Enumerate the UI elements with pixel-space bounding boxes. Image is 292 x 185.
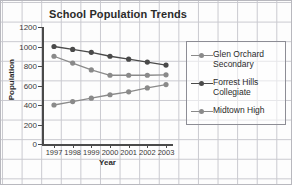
legend-item[interactable]: Forrest Hills Collegiate bbox=[191, 78, 258, 97]
y-tick-label: 400 bbox=[24, 101, 37, 110]
data-point bbox=[145, 60, 150, 65]
data-point bbox=[51, 44, 56, 49]
data-point bbox=[70, 60, 75, 65]
legend-item[interactable]: Glen Orchard Secondary bbox=[191, 50, 264, 69]
x-tick-label: 1997 bbox=[46, 148, 63, 157]
data-point bbox=[70, 47, 75, 52]
y-tick-label: 1000 bbox=[19, 42, 37, 51]
y-tick-label: 800 bbox=[24, 62, 37, 71]
y-tick-label: 1200 bbox=[19, 23, 37, 32]
data-point bbox=[145, 73, 150, 78]
legend-marker-icon bbox=[191, 107, 213, 117]
legend-label: Forrest Hills Collegiate bbox=[213, 78, 258, 97]
x-tick-label: 2003 bbox=[158, 148, 175, 157]
chart-title: School Population Trends bbox=[49, 8, 179, 20]
data-point bbox=[107, 73, 112, 78]
legend-marker-icon bbox=[191, 51, 213, 61]
y-tick-label: 0 bbox=[33, 140, 37, 149]
x-axis-title: Year bbox=[42, 158, 173, 167]
legend-label: Midtown High bbox=[213, 106, 265, 116]
x-tick-label: 2000 bbox=[102, 148, 119, 157]
data-point bbox=[89, 50, 94, 55]
data-point bbox=[126, 57, 131, 62]
data-point bbox=[107, 92, 112, 97]
y-tick-label: 200 bbox=[24, 120, 37, 129]
data-point bbox=[163, 62, 168, 67]
data-point bbox=[126, 89, 131, 94]
data-point bbox=[145, 85, 150, 90]
data-point bbox=[51, 102, 56, 107]
x-tick-label: 1998 bbox=[64, 148, 81, 157]
y-axis-title: Population bbox=[7, 59, 16, 100]
data-point bbox=[107, 54, 112, 59]
data-point bbox=[163, 82, 168, 87]
legend-label: Glen Orchard Secondary bbox=[213, 50, 264, 69]
legend-item[interactable]: Midtown High bbox=[191, 106, 265, 117]
x-tick-label: 1999 bbox=[83, 148, 100, 157]
plot-area: 020040060080010001200 199719981999200020… bbox=[42, 27, 173, 146]
series-lines bbox=[42, 27, 173, 146]
chart-canvas: School Population Trends Population 0200… bbox=[0, 0, 292, 185]
x-tick-label: 2001 bbox=[120, 148, 137, 157]
data-point bbox=[51, 54, 56, 59]
y-tick-label: 600 bbox=[24, 81, 37, 90]
data-point bbox=[89, 96, 94, 101]
data-point bbox=[163, 72, 168, 77]
data-point bbox=[89, 67, 94, 72]
data-point bbox=[126, 73, 131, 78]
data-point bbox=[70, 99, 75, 104]
legend-marker-icon bbox=[191, 79, 213, 89]
series-line bbox=[54, 56, 166, 75]
x-tick-label: 2002 bbox=[139, 148, 156, 157]
chart-legend: Glen Orchard SecondaryForrest Hills Coll… bbox=[186, 41, 286, 125]
